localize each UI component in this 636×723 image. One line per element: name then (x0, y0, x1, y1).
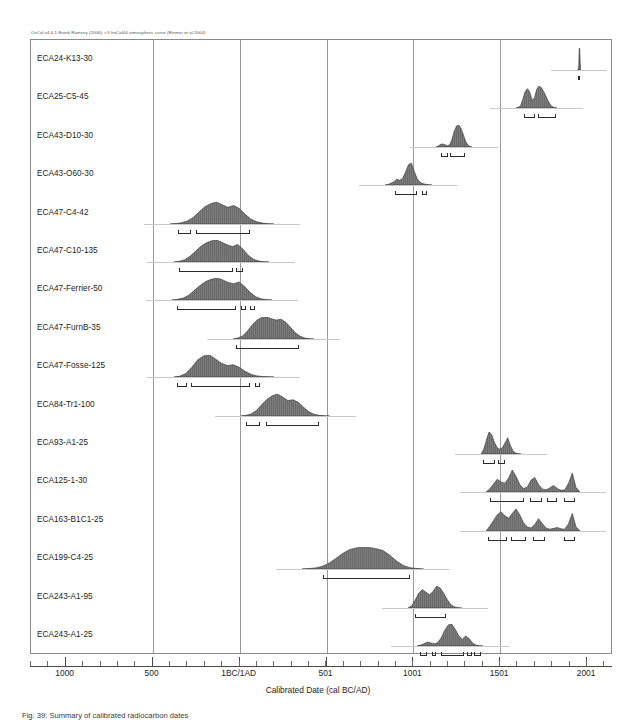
calibrated-range-bar (490, 498, 525, 502)
range-cap (504, 460, 505, 464)
calibrated-range-bar (483, 460, 495, 464)
axis-tick-major (65, 657, 66, 666)
sample-label: ECA47-FurnB-35 (37, 323, 101, 332)
distribution-row: ECA47-C4-42 (31, 200, 611, 238)
range-cap (511, 537, 512, 541)
axis-tick-minor (499, 661, 500, 666)
range-cap (547, 498, 548, 502)
range-line (191, 386, 250, 387)
axis-tick-label: 2001 (577, 668, 596, 678)
range-cap (409, 575, 410, 579)
sample-label: ECA43-O60-30 (37, 169, 94, 178)
range-cap (232, 268, 233, 272)
range-cap (266, 422, 267, 426)
axis-tick-minor (516, 661, 517, 666)
range-cap (579, 76, 580, 80)
distribution-row: ECA25-C5-45 (31, 84, 611, 122)
calibrated-range-bar (564, 498, 574, 502)
range-cap (236, 345, 237, 349)
calibrated-range-bar (250, 306, 255, 310)
calibrated-range-bar (241, 306, 246, 310)
range-cap (298, 345, 299, 349)
range-cap (242, 268, 243, 272)
axis-tick-minor (378, 661, 379, 666)
calibrated-range-bar (441, 153, 448, 157)
range-cap (538, 114, 539, 118)
range-cap (196, 230, 197, 234)
axis-tick-minor (325, 661, 326, 666)
range-cap (323, 575, 324, 579)
range-cap (241, 306, 242, 310)
distribution-row: ECA199-C4-25 (31, 545, 611, 583)
axis-tick-minor (412, 661, 413, 666)
axis-tick-minor (447, 661, 448, 666)
range-cap (191, 383, 192, 387)
range-cap (490, 498, 491, 502)
axis-tick-minor (30, 661, 31, 666)
range-cap (249, 383, 250, 387)
range-cap (179, 268, 180, 272)
calibrated-range-bar (236, 345, 299, 349)
range-cap (464, 153, 465, 157)
axis-tick-minor (343, 661, 344, 666)
sample-label: ECA43-D10-30 (37, 131, 93, 140)
axis-tick-label: 1BC/1AD (221, 668, 256, 678)
range-cap (556, 498, 557, 502)
calibrated-range-bar (177, 383, 187, 387)
axis-tick-minor (308, 661, 309, 666)
range-cap (441, 153, 442, 157)
range-cap (483, 460, 484, 464)
distribution-row: ECA93-A1-25 (31, 430, 611, 468)
range-cap (555, 114, 556, 118)
axis-tick-minor (569, 661, 570, 666)
range-line (177, 309, 236, 310)
calibrated-range-bar (488, 537, 507, 541)
range-cap (186, 383, 187, 387)
axis-tick-label: 1000 (55, 668, 74, 678)
sample-label: ECA93-A1-25 (37, 438, 88, 447)
range-line (450, 156, 465, 157)
distribution-row: ECA47-FurnB-35 (31, 315, 611, 353)
range-cap (178, 230, 179, 234)
range-cap (488, 537, 489, 541)
axis-tick-minor (134, 661, 135, 666)
calibrated-range-bar (236, 268, 243, 272)
axis-tick-minor (482, 661, 483, 666)
calibrated-range-bar (538, 114, 556, 118)
calibrated-range-bar (395, 191, 417, 195)
sample-label: ECA25-C5-45 (37, 92, 89, 101)
x-axis: 10005001BC/1AD501100115012001 (30, 654, 612, 678)
calibrated-range-bar (498, 460, 505, 464)
range-cap (255, 383, 256, 387)
distribution-row: ECA47-Fosse-125 (31, 353, 611, 391)
axis-tick-minor (239, 661, 240, 666)
range-line (196, 233, 250, 234)
axis-tick-minor (395, 661, 396, 666)
range-cap (447, 153, 448, 157)
range-cap (249, 230, 250, 234)
axis-tick-minor (204, 661, 205, 666)
range-cap (177, 306, 178, 310)
distribution-row: ECA24-K13-30 (31, 46, 611, 84)
calibrated-range-bar (422, 191, 428, 195)
calibrated-range-bar (564, 537, 574, 541)
axis-tick-minor (100, 661, 101, 666)
calibrated-range-bar (177, 306, 236, 310)
range-cap (259, 383, 260, 387)
sample-label: ECA47-Fosse-125 (37, 361, 105, 370)
sample-label: ECA47-C10-135 (37, 246, 98, 255)
distribution-row: ECA43-O60-30 (31, 161, 611, 199)
distribution-row: ECA243-A1-95 (31, 584, 611, 622)
range-cap (415, 614, 416, 618)
range-cap (395, 191, 396, 195)
range-line (395, 194, 417, 195)
calibrated-range-bar (450, 153, 465, 157)
range-cap (541, 498, 542, 502)
sample-label: ECA243-A1-95 (37, 592, 93, 601)
x-axis-title: Calibrated Date (cal BC/AD) (0, 685, 636, 695)
range-line (490, 501, 525, 502)
distribution-row: ECA43-D10-30 (31, 123, 611, 161)
range-cap (544, 537, 545, 541)
distribution-row: ECA47-C10-135 (31, 238, 611, 276)
axis-tick-label: 1001 (403, 668, 422, 678)
